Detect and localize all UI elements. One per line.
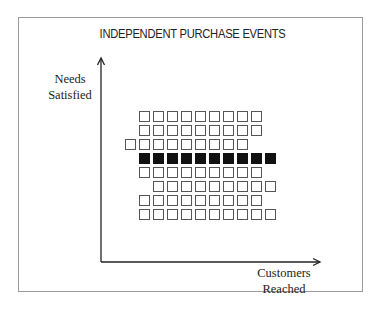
empty-square [251,195,262,206]
empty-square [139,167,150,178]
empty-square [153,111,164,122]
empty-square [237,139,248,150]
empty-square [167,167,178,178]
empty-square [167,139,178,150]
empty-square [251,111,262,122]
empty-square [223,195,234,206]
empty-square [237,111,248,122]
empty-square [251,125,262,136]
empty-square [139,195,150,206]
empty-square [195,139,206,150]
empty-square [139,209,150,220]
empty-square [223,167,234,178]
filled-square [153,153,164,164]
empty-square [237,195,248,206]
empty-square [223,111,234,122]
filled-square [237,153,248,164]
filled-square [195,153,206,164]
filled-square [139,153,150,164]
y-axis-label-line1: Needs [38,71,102,87]
empty-square [153,195,164,206]
empty-square [139,125,150,136]
filled-square [251,153,262,164]
y-axis-label-line2: Satisfied [38,87,102,103]
empty-square [167,181,178,192]
empty-square [167,125,178,136]
filled-square [167,153,178,164]
empty-square [195,181,206,192]
empty-square [251,167,262,178]
empty-square [153,209,164,220]
empty-square [265,181,276,192]
empty-square [139,139,150,150]
empty-square [153,125,164,136]
empty-square [181,167,192,178]
empty-square [139,111,150,122]
empty-square [195,209,206,220]
empty-square [223,181,234,192]
empty-square [237,167,248,178]
empty-square [209,111,220,122]
empty-square [167,195,178,206]
empty-square [125,139,136,150]
empty-square [153,181,164,192]
empty-square [153,139,164,150]
empty-square [209,139,220,150]
empty-square [209,167,220,178]
empty-square [237,125,248,136]
empty-square [181,111,192,122]
empty-square [167,111,178,122]
empty-square [181,125,192,136]
empty-square [237,209,248,220]
empty-square [209,209,220,220]
filled-square [223,153,234,164]
x-axis-label: Customers Reached [250,265,318,297]
empty-square [153,167,164,178]
filled-square [181,153,192,164]
empty-square [181,209,192,220]
empty-square [251,209,262,220]
empty-square [265,209,276,220]
empty-square [209,181,220,192]
empty-square [181,181,192,192]
empty-square [195,111,206,122]
empty-square [167,209,178,220]
axes [0,0,384,312]
empty-square [251,181,262,192]
empty-square [223,209,234,220]
empty-square [181,195,192,206]
empty-square [209,195,220,206]
empty-square [181,139,192,150]
empty-square [195,195,206,206]
empty-square [223,139,234,150]
empty-square [209,125,220,136]
x-axis-label-line1: Customers [250,265,318,281]
empty-square [195,125,206,136]
x-axis-label-line2: Reached [250,281,318,297]
y-axis-label: Needs Satisfied [38,71,102,103]
filled-square [265,153,276,164]
filled-square [209,153,220,164]
empty-square [195,167,206,178]
empty-square [223,125,234,136]
empty-square [237,181,248,192]
